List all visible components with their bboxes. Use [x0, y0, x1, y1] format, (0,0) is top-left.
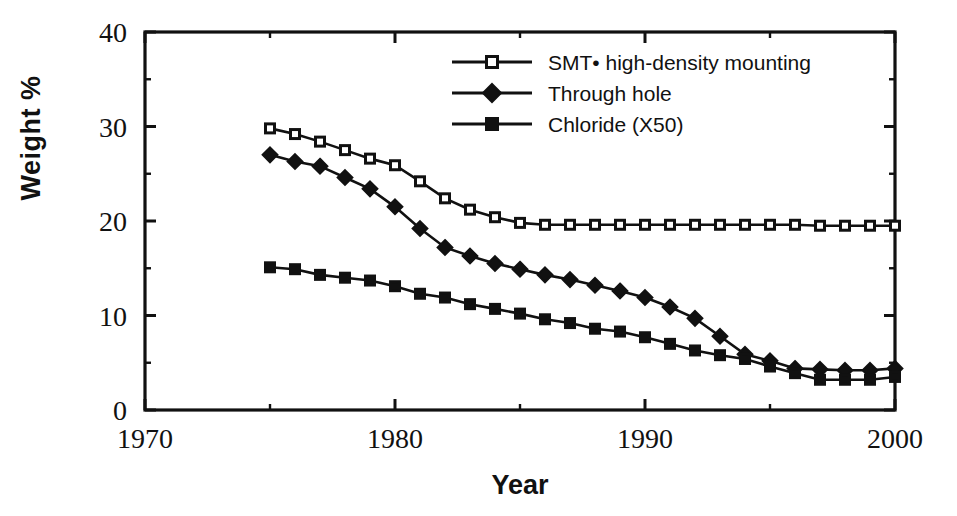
marker-open-square — [816, 221, 825, 230]
marker-filled-diamond — [263, 147, 278, 162]
legend-item: SMT• high-density mounting — [452, 51, 811, 74]
series-line — [270, 267, 895, 379]
marker-filled-diamond — [588, 278, 603, 293]
marker-filled-square — [466, 300, 475, 309]
marker-open-square — [366, 154, 375, 163]
marker-filled-diamond — [538, 267, 553, 282]
legend-label: Through hole — [548, 82, 672, 105]
data-series — [266, 124, 900, 230]
marker-filled-square — [841, 375, 850, 384]
marker-filled-diamond — [483, 84, 501, 102]
data-series — [266, 263, 900, 384]
marker-open-square — [666, 220, 675, 229]
marker-open-square — [516, 218, 525, 227]
marker-filled-square — [641, 333, 650, 342]
marker-open-square — [466, 205, 475, 214]
x-tick-labels: 1970198019902000 — [117, 423, 923, 454]
y-tick-label: 30 — [99, 112, 127, 143]
marker-filled-square — [741, 354, 750, 363]
marker-open-square — [841, 221, 850, 230]
chart-legend: SMT• high-density mountingThrough holeCh… — [452, 51, 811, 136]
marker-open-square — [716, 220, 725, 229]
marker-filled-diamond — [663, 300, 678, 315]
marker-filled-square — [866, 375, 875, 384]
legend-item: Chloride (X50) — [452, 113, 683, 136]
marker-filled-square — [341, 273, 350, 282]
marker-filled-square — [291, 265, 300, 274]
line-chart: 1970198019902000 010203040 SMT• high-den… — [0, 0, 957, 516]
marker-filled-square — [491, 304, 500, 313]
marker-open-square — [791, 220, 800, 229]
marker-filled-square — [616, 327, 625, 336]
legend-label: SMT• high-density mounting — [548, 51, 811, 74]
marker-filled-square — [541, 315, 550, 324]
data-series-group — [263, 124, 903, 384]
marker-filled-square — [591, 324, 600, 333]
marker-filled-square — [316, 270, 325, 279]
marker-open-square — [566, 220, 575, 229]
y-tick-label: 0 — [113, 395, 127, 426]
marker-open-square — [616, 220, 625, 229]
marker-open-square — [741, 220, 750, 229]
legend-label: Chloride (X50) — [548, 113, 683, 136]
marker-filled-square — [766, 362, 775, 371]
marker-filled-square — [266, 263, 275, 272]
marker-open-square — [491, 213, 500, 222]
marker-filled-square — [516, 309, 525, 318]
marker-open-square — [416, 177, 425, 186]
chart-figure: Weight % 1970198019902000 010203040 SMT•… — [0, 0, 957, 516]
marker-filled-square — [391, 282, 400, 291]
x-axis-title-text: Year — [491, 470, 549, 500]
marker-filled-square — [416, 289, 425, 298]
marker-open-square — [591, 220, 600, 229]
marker-filled-square — [666, 339, 675, 348]
marker-filled-diamond — [613, 284, 628, 299]
series-line — [270, 128, 895, 225]
marker-filled-diamond — [638, 290, 653, 305]
marker-filled-square — [366, 276, 375, 285]
marker-open-square — [691, 220, 700, 229]
marker-open-square — [266, 124, 275, 133]
marker-open-square — [487, 57, 498, 68]
marker-open-square — [541, 220, 550, 229]
marker-filled-diamond — [463, 249, 478, 264]
marker-open-square — [866, 221, 875, 230]
marker-filled-square — [566, 319, 575, 328]
x-tick-label: 1990 — [617, 423, 673, 454]
marker-open-square — [391, 161, 400, 170]
marker-filled-square — [816, 375, 825, 384]
marker-filled-square — [891, 372, 900, 381]
data-series — [263, 147, 903, 377]
marker-open-square — [341, 146, 350, 155]
marker-filled-square — [691, 346, 700, 355]
x-axis-title: Year — [491, 470, 549, 500]
y-tick-label: 10 — [99, 301, 127, 332]
marker-filled-diamond — [563, 272, 578, 287]
marker-filled-diamond — [338, 170, 353, 185]
marker-open-square — [891, 221, 900, 230]
marker-filled-square — [441, 293, 450, 302]
marker-filled-diamond — [488, 256, 503, 271]
marker-open-square — [291, 130, 300, 139]
y-tick-label: 40 — [99, 17, 127, 48]
marker-open-square — [766, 220, 775, 229]
marker-filled-diamond — [288, 154, 303, 169]
y-tick-labels: 010203040 — [99, 17, 127, 426]
marker-filled-square — [791, 369, 800, 378]
x-tick-label: 1980 — [367, 423, 423, 454]
marker-open-square — [441, 194, 450, 203]
marker-filled-square — [487, 119, 498, 130]
y-tick-label: 20 — [99, 206, 127, 237]
marker-filled-square — [716, 351, 725, 360]
x-tick-label: 1970 — [117, 423, 173, 454]
marker-filled-diamond — [513, 262, 528, 277]
marker-filled-diamond — [313, 159, 328, 174]
marker-open-square — [316, 137, 325, 146]
x-tick-label: 2000 — [867, 423, 923, 454]
legend-item: Through hole — [452, 82, 672, 105]
marker-open-square — [641, 220, 650, 229]
